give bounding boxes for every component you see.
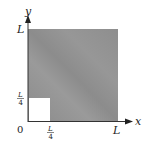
x-axis-arrow-icon [125,119,133,125]
x-tick-quarter-den: 4 [49,133,54,141]
region-diagram: y x 0 L L L 4 L 4 [0,0,144,165]
origin-label: 0 [17,124,23,135]
y-tick-L: L [16,23,24,36]
y-tick-quarter-num: L [17,91,23,99]
y-axis-label: y [24,5,32,18]
y-tick-quarter-den: 4 [19,99,24,107]
excluded-corner-region [29,98,50,121]
x-axis-label: x [135,115,142,128]
x-tick-quarter-num: L [47,125,53,133]
x-tick-L: L [112,124,120,137]
